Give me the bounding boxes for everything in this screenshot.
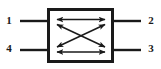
port-label-4: 4	[3, 43, 15, 54]
schematic-canvas	[0, 0, 161, 69]
port-label-3: 3	[145, 43, 157, 54]
four-port-network-figure: 1 2 3 4	[0, 0, 161, 69]
port-label-1: 1	[3, 15, 15, 26]
port-label-2: 2	[145, 15, 157, 26]
